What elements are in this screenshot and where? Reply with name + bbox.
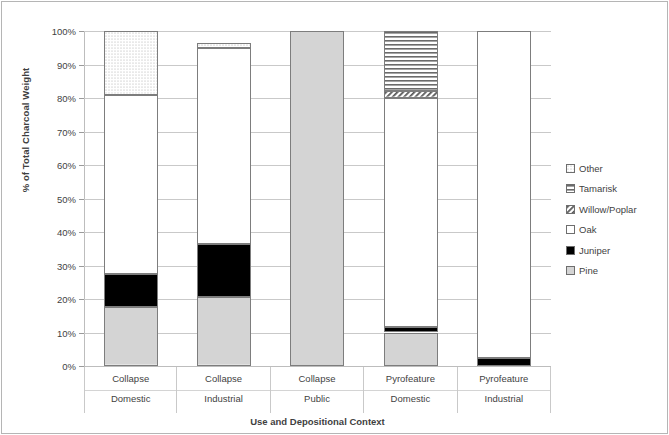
stacked-bar[interactable] <box>477 31 531 366</box>
y-axis-tick-label: 20% <box>57 294 76 305</box>
legend-swatch-icon <box>566 205 575 214</box>
legend-item[interactable]: Other <box>566 158 666 179</box>
bar-group <box>84 31 551 366</box>
x-axis-category: PyrofeatureIndustrial <box>458 367 551 413</box>
bar-slot <box>177 31 270 366</box>
bar-segment-other[interactable] <box>197 43 251 48</box>
y-axis-tick-label: 60% <box>57 160 76 171</box>
y-axis-tick-label: 40% <box>57 227 76 238</box>
legend-item[interactable]: Pine <box>566 261 666 282</box>
legend-swatch-icon <box>566 225 575 234</box>
bar-segment-juniper[interactable] <box>197 244 251 298</box>
bar-segment-juniper[interactable] <box>104 274 158 308</box>
bar-segment-oak[interactable] <box>384 98 438 327</box>
legend-item[interactable]: Tamarisk <box>566 179 666 200</box>
x-axis-label-context: Domestic <box>85 393 176 404</box>
x-axis-label-context: Industrial <box>177 393 269 404</box>
legend-label: Pine <box>579 265 598 276</box>
stacked-bar[interactable] <box>384 31 438 366</box>
x-axis-label-context: Domestic <box>364 393 456 404</box>
x-axis-label-context: Industrial <box>458 393 550 404</box>
x-axis-label-divider <box>271 390 363 391</box>
x-axis-label-divider <box>458 390 550 391</box>
x-axis-label-use: Collapse <box>177 373 269 384</box>
bar-slot <box>271 31 364 366</box>
bar-slot <box>364 31 457 366</box>
y-axis-tick-label: 50% <box>57 193 76 204</box>
x-axis-label-use: Collapse <box>85 373 176 384</box>
bar-slot <box>84 31 177 366</box>
x-axis-label-use: Pyrofeature <box>364 373 456 384</box>
y-axis: 0%10%20%30%40%50%60%70%80%90%100% <box>0 31 84 366</box>
legend-label: Other <box>579 163 603 174</box>
y-axis-tick-label: 0% <box>62 361 76 372</box>
y-axis-tick-label: 90% <box>57 59 76 70</box>
y-axis-tick-label: 80% <box>57 93 76 104</box>
stacked-bar[interactable] <box>290 31 344 366</box>
bar-segment-pine[interactable] <box>384 333 438 367</box>
legend-swatch-icon <box>566 184 575 193</box>
bar-segment-pine[interactable] <box>290 31 344 366</box>
bar-segment-tamarisk[interactable] <box>384 31 438 91</box>
y-axis-tick-label: 100% <box>52 26 76 37</box>
y-axis-tick-label: 30% <box>57 260 76 271</box>
x-axis-category: CollapsePublic <box>271 367 364 413</box>
x-axis-category: PyrofeatureDomestic <box>364 367 457 413</box>
legend: OtherTamariskWillow/PoplarOakJuniperPine <box>566 158 666 281</box>
legend-label: Oak <box>579 224 596 235</box>
x-axis-label-context: Public <box>271 393 363 404</box>
bar-slot <box>458 31 551 366</box>
x-axis-label-divider <box>177 390 269 391</box>
x-axis-category: CollapseIndustrial <box>177 367 270 413</box>
bar-segment-juniper[interactable] <box>477 358 531 366</box>
x-axis-title: Use and Depositional Context <box>84 416 551 427</box>
bar-segment-willow-poplar[interactable] <box>384 91 438 98</box>
legend-item[interactable]: Oak <box>566 220 666 241</box>
x-axis-category: CollapseDomestic <box>84 367 177 413</box>
bar-segment-oak[interactable] <box>477 31 531 358</box>
bar-segment-pine[interactable] <box>104 307 158 366</box>
x-axis-label-use: Pyrofeature <box>458 373 550 384</box>
stacked-bar[interactable] <box>197 31 251 366</box>
legend-label: Willow/Poplar <box>579 204 637 215</box>
y-axis-tick-label: 10% <box>57 327 76 338</box>
legend-swatch-icon <box>566 246 575 255</box>
legend-swatch-icon <box>566 266 575 275</box>
legend-label: Juniper <box>579 245 610 256</box>
y-axis-tick-label: 70% <box>57 126 76 137</box>
x-axis-label-divider <box>364 390 456 391</box>
plot-area <box>84 31 551 366</box>
bar-segment-other[interactable] <box>104 31 158 95</box>
x-axis-label-divider <box>85 390 176 391</box>
x-axis-categories: CollapseDomesticCollapseIndustrialCollap… <box>84 366 551 413</box>
charcoal-weight-stacked-bar-chart: % of Total Charcoal Weight 0%10%20%30%40… <box>0 0 669 435</box>
bar-segment-oak[interactable] <box>197 48 251 244</box>
legend-label: Tamarisk <box>579 183 617 194</box>
x-axis-label-use: Collapse <box>271 373 363 384</box>
legend-swatch-icon <box>566 164 575 173</box>
bar-segment-oak[interactable] <box>104 95 158 274</box>
legend-item[interactable]: Juniper <box>566 240 666 261</box>
stacked-bar[interactable] <box>104 31 158 366</box>
legend-item[interactable]: Willow/Poplar <box>566 199 666 220</box>
bar-segment-pine[interactable] <box>197 297 251 366</box>
bar-segment-juniper[interactable] <box>384 327 438 332</box>
